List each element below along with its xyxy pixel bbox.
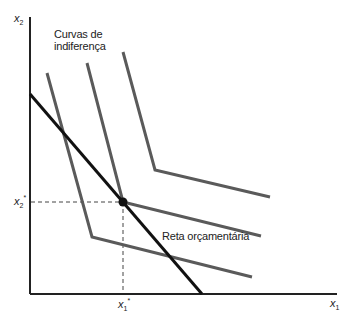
annotation-line-2: indiferença — [54, 40, 106, 52]
budget-line-annotation: Reta orçamentária — [162, 230, 249, 242]
x2-star-label: x2* — [14, 194, 26, 209]
x-axis-label-sub: 1 — [336, 304, 340, 311]
x1-star-sub: 1 — [124, 305, 128, 312]
indifference-curve-high — [123, 52, 270, 197]
y-axis-label-sub: 2 — [20, 19, 24, 26]
x1-star-sup: * — [127, 297, 130, 304]
x2-star-sup: * — [23, 194, 26, 201]
x1-star-label: x1* — [118, 297, 130, 312]
indifference-curve-low — [47, 73, 252, 277]
budget-line — [30, 94, 202, 294]
optimum-point — [119, 198, 128, 207]
x-axis-label: x1 — [330, 297, 339, 311]
indifference-curves-annotation: Curvas de indiferença — [54, 28, 106, 52]
indifference-curve-mid — [87, 63, 261, 236]
y-axis-label: x2 — [14, 12, 23, 26]
x2-star-sub: 2 — [20, 202, 24, 209]
annotation-line-1: Curvas de — [54, 28, 106, 40]
